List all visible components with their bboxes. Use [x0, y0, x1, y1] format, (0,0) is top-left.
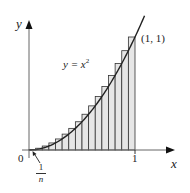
rectangle-width-label: 1 n: [36, 163, 46, 184]
upper-sum-rectangles: [29, 37, 135, 150]
riemann-sum-figure: [0, 0, 190, 193]
x-axis-label: x: [171, 157, 177, 170]
riemann-rectangle: [82, 114, 89, 150]
width-denominator: n: [36, 174, 46, 184]
width-pointer-arrowhead-icon: [33, 151, 37, 156]
curve-equation-label: y = x2: [63, 58, 89, 70]
y-axis-label: y: [16, 17, 22, 30]
riemann-rectangle: [122, 51, 129, 150]
riemann-rectangle: [115, 63, 122, 150]
x-tick-one-label: 1: [132, 153, 138, 164]
curve-equation-lhs: y = x: [63, 58, 86, 70]
point-label: (1, 1): [141, 33, 165, 44]
width-numerator: 1: [36, 163, 46, 174]
curve-equation-exponent: 2: [86, 57, 90, 65]
y-axis-arrow-icon: [26, 20, 33, 29]
origin-label: 0: [18, 153, 24, 164]
riemann-rectangle: [109, 75, 116, 150]
riemann-rectangle: [128, 37, 135, 150]
x-axis-arrow-icon: [166, 147, 175, 154]
